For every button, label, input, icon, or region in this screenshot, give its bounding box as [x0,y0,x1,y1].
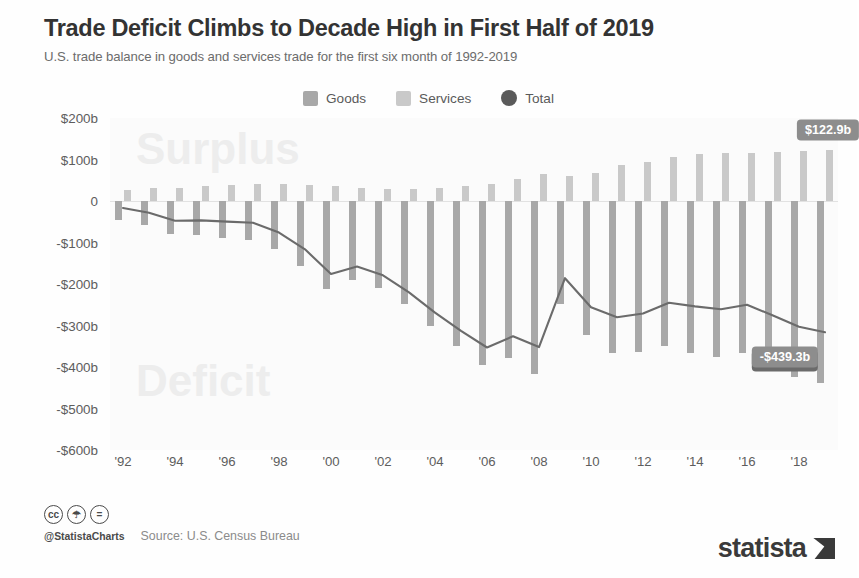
cc-by-icon: ☂ [67,505,86,524]
cc-icon: cc [44,505,63,524]
legend-label: Services [419,91,471,106]
y-axis-tick: $200b [61,111,98,126]
page-title: Trade Deficit Climbs to Decade High in F… [44,16,834,42]
x-axis-tick: '14 [686,454,703,469]
goods-swatch-icon [303,91,318,106]
x-axis-tick: '04 [426,454,443,469]
legend-item-goods[interactable]: Goods [303,91,366,106]
chart-subtitle: U.S. trade balance in goods and services… [44,49,834,64]
x-axis-tick: '92 [114,454,131,469]
x-axis-tick: '16 [738,454,755,469]
x-axis-tick: '08 [530,454,547,469]
y-axis-labels: $200b$100b0-$100b-$200b-$300b-$400b-$500… [0,118,104,450]
legend-label: Goods [326,91,366,106]
y-axis-tick: -$100b [56,235,98,250]
x-axis-tick: '02 [374,454,391,469]
x-axis-tick: '10 [582,454,599,469]
cc-nd-icon: = [90,505,109,524]
x-axis-tick: '98 [270,454,287,469]
services-swatch-icon [396,91,411,106]
source-text: Source: U.S. Census Bureau [141,529,300,543]
statista-mark-icon [812,538,835,559]
x-axis-labels: '92'94'96'98'00'02'04'06'08'10'12'14'16'… [110,454,838,478]
y-axis-tick: 0 [91,194,98,209]
plot-area: Surplus Deficit $122.9b-$316.3b-$439.3b [110,118,838,450]
chart-header: Trade Deficit Climbs to Decade High in F… [44,16,834,64]
y-axis-tick: $100b [61,152,98,167]
y-axis-tick: -$200b [56,277,98,292]
statista-logo: statista [718,535,835,562]
creative-commons-icons: cc ☂ = [44,505,834,524]
callout-services: $122.9b [797,119,859,140]
chart-footer: cc ☂ = @StatistaCharts Source: U.S. Cens… [44,505,834,561]
total-line [123,208,825,347]
callout-goods: -$439.3b [752,347,818,368]
y-axis-tick: -$400b [56,360,98,375]
x-axis-tick: '12 [634,454,651,469]
total-swatch-icon [501,90,517,106]
credit-row: @StatistaCharts Source: U.S. Census Bure… [44,529,834,543]
x-axis-tick: '06 [478,454,495,469]
x-axis-tick: '96 [218,454,235,469]
y-axis-tick: -$600b [56,443,98,458]
y-axis-tick: -$500b [56,401,98,416]
statista-wordmark: statista [718,535,806,562]
legend-item-total[interactable]: Total [501,90,554,106]
x-axis-tick: '94 [166,454,183,469]
statista-handle: @StatistaCharts [44,531,125,542]
legend-label: Total [525,91,554,106]
x-axis-tick: '00 [322,454,339,469]
total-line-layer [110,118,838,450]
chart-legend: GoodsServicesTotal [0,90,857,106]
legend-item-services[interactable]: Services [396,91,471,106]
x-axis-tick: '18 [790,454,807,469]
y-axis-tick: -$300b [56,318,98,333]
